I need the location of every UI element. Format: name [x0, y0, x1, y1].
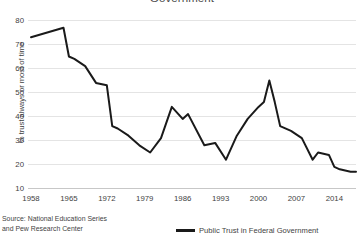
source-note-line-2: and Pew Research Center: [2, 224, 162, 234]
x-tick-label-1993: 1993: [212, 194, 229, 203]
y-tick-label-20: 20: [15, 160, 24, 169]
x-tick-label-1979: 1979: [136, 194, 153, 203]
chart-container: Government % trust always or most of tim…: [0, 0, 364, 242]
y-tick-label-40: 40: [15, 112, 24, 121]
x-tick-label-2007: 2007: [288, 194, 305, 203]
x-tick-label-2014: 2014: [326, 194, 344, 203]
x-tick-label-2000: 2000: [250, 194, 268, 203]
y-tick-label-30: 30: [15, 136, 24, 145]
source-note: Source: National Education Series and Pe…: [2, 214, 162, 233]
gridlines-group: [28, 21, 356, 189]
y-tick-labels-group: 1020304050607080: [15, 16, 24, 193]
y-tick-label-50: 50: [15, 88, 24, 97]
y-tick-label-10: 10: [15, 184, 24, 193]
x-tick-label-1972: 1972: [98, 194, 115, 203]
x-tick-label-1965: 1965: [60, 194, 78, 203]
chart-plot-area: 1020304050607080 19581965197219791986199…: [0, 0, 364, 242]
series-line-public-trust: [31, 28, 356, 172]
x-tick-labels-group: 195819651972197919861993200020072014: [22, 194, 343, 203]
y-tick-label-80: 80: [15, 16, 24, 25]
y-tick-label-70: 70: [15, 40, 24, 49]
legend-label: Public Trust in Federal Government: [199, 226, 318, 235]
source-note-line-1: Source: National Education Series: [2, 214, 162, 224]
y-tick-label-60: 60: [15, 64, 24, 73]
legend-line-swatch: [176, 229, 195, 231]
x-tick-label-1986: 1986: [174, 194, 191, 203]
x-tick-label-1958: 1958: [22, 194, 39, 203]
chart-legend: Public Trust in Federal Government: [176, 226, 318, 235]
